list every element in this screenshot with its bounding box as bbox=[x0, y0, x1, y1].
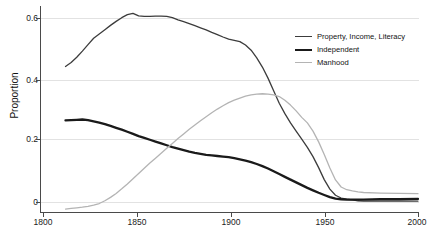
x-tick-label-2000: 2000 bbox=[397, 218, 429, 227]
legend: Property, Income, Literacy Independent M… bbox=[295, 31, 427, 70]
legend-label-manhood: Manhood bbox=[317, 58, 349, 67]
legend-label-property-income-literacy: Property, Income, Literacy bbox=[317, 32, 405, 41]
y-tick-label-0.2: 0.2 bbox=[12, 135, 38, 144]
series-line-independent bbox=[66, 120, 419, 200]
y-tick-label-0: 0 bbox=[12, 198, 38, 207]
x-tickmark-1900 bbox=[231, 213, 232, 217]
x-tick-label-1800: 1800 bbox=[23, 218, 63, 227]
legend-item-independent: Independent bbox=[295, 44, 427, 55]
x-tickmark-2000 bbox=[418, 213, 419, 217]
legend-item-manhood: Manhood bbox=[295, 57, 427, 68]
x-tick-label-1950: 1950 bbox=[305, 218, 345, 227]
suffrage-proportion-line-chart: Proportion 0.6 0.4 0.2 0 1800 1850 1900 … bbox=[0, 0, 429, 239]
legend-swatch-line-icon bbox=[295, 62, 312, 63]
legend-item-property-income-literacy: Property, Income, Literacy bbox=[295, 31, 427, 42]
x-tick-label-1900: 1900 bbox=[211, 218, 251, 227]
x-tickmark-1850 bbox=[137, 213, 138, 217]
y-axis-tick-labels: 0.6 0.4 0.2 0 bbox=[6, 0, 38, 239]
x-tick-label-1850: 1850 bbox=[117, 218, 157, 227]
x-tickmark-1950 bbox=[325, 213, 326, 217]
x-axis-tick-labels: 1800 1850 1900 1950 2000 bbox=[0, 218, 429, 232]
y-tick-label-0.6: 0.6 bbox=[12, 14, 38, 23]
legend-swatch-line-icon bbox=[295, 49, 312, 51]
series-line-manhood bbox=[66, 94, 419, 209]
x-tickmark-1800 bbox=[43, 213, 44, 217]
y-tick-label-0.4: 0.4 bbox=[12, 76, 38, 85]
legend-label-independent: Independent bbox=[317, 45, 359, 54]
legend-swatch-line-icon bbox=[295, 36, 312, 37]
